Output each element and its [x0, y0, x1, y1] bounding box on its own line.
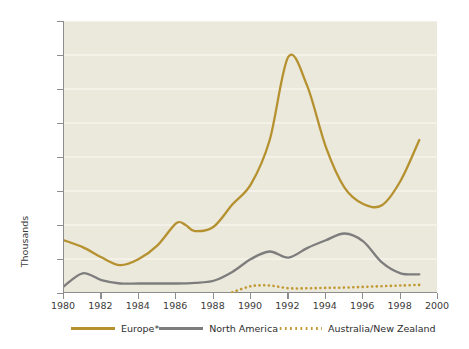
legend-label: Australia/New Zealand	[328, 323, 436, 334]
y-axis-tick-mark	[57, 89, 63, 90]
series-lines	[64, 21, 438, 293]
y-axis-tick-mark	[57, 259, 63, 260]
x-axis-tick-mark	[325, 293, 326, 299]
chart-figure: Thousands Europe*North AmericaAustralia/…	[0, 0, 469, 349]
y-axis-tick-mark	[57, 123, 63, 124]
x-axis-tick-mark	[400, 293, 401, 299]
y-axis-tick-mark	[57, 21, 63, 22]
y-axis-tick-mark	[57, 55, 63, 56]
x-axis-tick-mark	[213, 293, 214, 299]
x-axis-tick-mark	[63, 293, 64, 299]
legend-swatch	[159, 327, 203, 330]
legend-swatch	[71, 327, 115, 330]
chart-legend: Europe*North AmericaAustralia/New Zealan…	[63, 320, 437, 336]
legend-label: North America	[209, 323, 278, 334]
x-axis-tick-mark	[362, 293, 363, 299]
legend-item[interactable]: Europe*	[71, 323, 159, 334]
y-axis-tick-mark	[57, 191, 63, 192]
y-axis-title: Thousands	[19, 202, 30, 282]
x-axis-tick-mark	[437, 293, 438, 299]
series-line	[64, 55, 419, 265]
x-axis-tick-mark	[100, 293, 101, 299]
y-axis-tick-mark	[57, 157, 63, 158]
legend-item[interactable]: Australia/New Zealand	[278, 323, 436, 334]
plot-area	[63, 21, 437, 293]
series-line	[232, 285, 419, 292]
legend-swatch	[278, 327, 322, 330]
legend-label: Europe*	[121, 323, 159, 334]
x-axis-tick-label: 2000	[415, 301, 459, 311]
x-axis-tick-mark	[250, 293, 251, 299]
y-axis-tick-mark	[57, 225, 63, 226]
x-axis-tick-mark	[138, 293, 139, 299]
series-line	[64, 233, 419, 286]
legend-item[interactable]: North America	[159, 323, 278, 334]
x-axis-tick-mark	[287, 293, 288, 299]
x-axis-tick-mark	[175, 293, 176, 299]
